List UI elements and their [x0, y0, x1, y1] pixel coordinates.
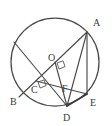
geometry-figure: ABCDEFO	[0, 0, 112, 126]
geometry-canvas: ABCDEFO	[0, 0, 112, 126]
segment-B-A	[19, 32, 87, 97]
vertex-label-B: B	[10, 96, 17, 107]
right-angle-at-O	[57, 61, 65, 69]
vertex-label-D: D	[63, 112, 70, 123]
vertex-label-C: C	[31, 84, 38, 95]
vertex-label-A: A	[93, 17, 101, 28]
right-angle-at-O-square	[57, 61, 65, 69]
vertex-label-E: E	[90, 97, 96, 108]
right-angle-at-C	[38, 80, 46, 88]
vertex-label-F: F	[62, 83, 68, 94]
right-angle-at-C-square	[38, 80, 46, 88]
vertex-label-O: O	[48, 52, 55, 63]
segment-G-D	[14, 42, 67, 106]
